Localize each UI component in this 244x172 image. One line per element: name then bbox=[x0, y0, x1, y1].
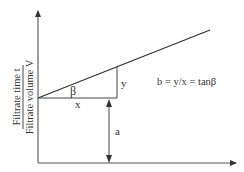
filtration-diagram: β x y a b = y/x = tanβ Filtrate time t F… bbox=[0, 0, 244, 172]
y-label: y bbox=[121, 77, 127, 89]
slope-equation: b = y/x = tanβ bbox=[157, 76, 216, 87]
a-label: a bbox=[115, 125, 120, 137]
intercept-arrow-top-head bbox=[106, 99, 112, 107]
intercept-arrow-bottom-head bbox=[106, 155, 112, 163]
y-axis-numerator: Filtrate time t bbox=[11, 68, 22, 125]
y-axis-label: Filtrate time t Filtrate volume V bbox=[11, 59, 35, 134]
x-label: x bbox=[75, 98, 81, 110]
beta-label: β bbox=[70, 84, 76, 98]
y-axis-denominator: Filtrate volume V bbox=[24, 59, 35, 134]
